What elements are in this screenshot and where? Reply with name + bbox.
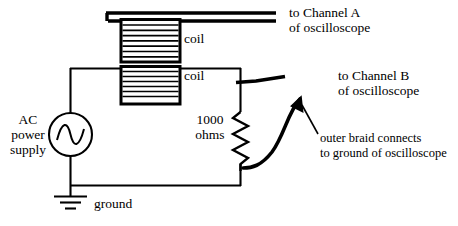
channel-a-label-line1: to Channel A xyxy=(289,5,360,20)
coil-primary-symbol xyxy=(121,20,180,63)
braid-arrow-shaft xyxy=(302,105,318,134)
channel-b-label-line1: to Channel B xyxy=(338,68,409,83)
ground-symbol xyxy=(54,197,87,209)
ac-source-label-line2: power xyxy=(6,127,50,142)
braid-annotation-line2: to ground of oscilloscope xyxy=(320,146,447,160)
coil-primary-windings xyxy=(123,25,179,57)
ground-label: ground xyxy=(94,196,132,211)
resistor-zigzag-symbol xyxy=(233,112,248,171)
coil-secondary-label: coil xyxy=(184,68,204,83)
braid-annotation-line1: outer braid connects xyxy=(320,131,421,145)
channel-b-signal-lead xyxy=(236,77,285,83)
ac-source-label-line3: supply xyxy=(6,142,50,157)
circuit-diagram: to Channel A of oscilloscope to Channel … xyxy=(0,0,458,226)
ac-source-symbol xyxy=(49,113,92,156)
channel-b-label-line2: of oscilloscope xyxy=(338,83,419,98)
braid-annotation-arrow xyxy=(290,93,318,134)
coil-secondary-symbol xyxy=(121,67,180,105)
resistor-value-line2: ohms xyxy=(189,127,231,142)
resistor-value-line1: 1000 xyxy=(189,112,231,127)
ac-source-label-line1: AC xyxy=(6,112,50,127)
channel-a-label-line2: of oscilloscope xyxy=(289,20,370,35)
coil-primary-label: coil xyxy=(184,31,204,46)
outer-braid-curve xyxy=(243,99,300,168)
